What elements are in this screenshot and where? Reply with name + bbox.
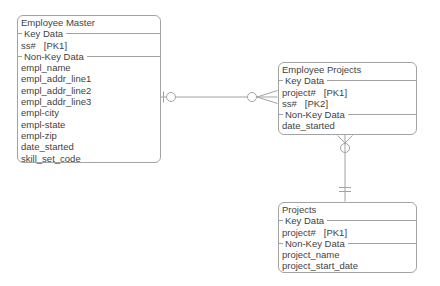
section-label: Non-Key Data: [283, 109, 348, 120]
cardinality-circle: [248, 93, 257, 102]
attribute-name: project#: [282, 227, 316, 238]
section-separator-nonkey-data: Non-Key Data: [18, 51, 160, 62]
separator-line: [327, 220, 416, 221]
primary-key-tag: [PK1]: [44, 40, 67, 51]
entity-title: Employee Master: [18, 17, 160, 28]
section-separator-key-data: Key Data: [279, 75, 416, 86]
relationship-projects-to-employee-projects: [338, 135, 353, 202]
section-separator-key-data: Key Data: [279, 215, 416, 226]
attribute-row: date_started: [18, 141, 160, 152]
section-label: Non-Key Data: [283, 238, 348, 249]
attribute-name: project#: [282, 87, 316, 98]
section-separator-key-data: Key Data: [18, 28, 160, 39]
entity-employee-projects: Employee Projects Key Data project#[PK1]…: [278, 62, 417, 135]
attribute-row: empl-state: [18, 119, 160, 130]
entity-title: Projects: [279, 204, 416, 215]
attribute-row: project_name: [279, 249, 416, 260]
attribute-row: empl_name: [18, 62, 160, 73]
crows-foot-icon: [338, 136, 346, 144]
attribute-row: empl_addr_line3: [18, 96, 160, 107]
separator-line: [348, 114, 416, 115]
section-separator-nonkey-data: Non-Key Data: [279, 109, 416, 120]
primary-key-tag: [PK1]: [324, 227, 347, 238]
section-label: Key Data: [283, 215, 327, 226]
attribute-row: project#[PK1]: [279, 87, 416, 98]
attribute-row: ss#[PK2]: [279, 98, 416, 109]
crows-foot-icon: [345, 136, 353, 144]
separator-line: [348, 243, 416, 244]
er-diagram-canvas: Employee Master Key Data ss#[PK1] Non-Ke…: [0, 0, 440, 286]
attribute-name: ss#: [21, 40, 36, 51]
separator-line: [87, 56, 160, 57]
attribute-row: empl-zip: [18, 130, 160, 141]
cardinality-circle: [167, 93, 176, 102]
attribute-row: project#[PK1]: [279, 227, 416, 238]
attribute-name: ss#: [282, 98, 297, 109]
attribute-row: empl-city: [18, 107, 160, 118]
attribute-row: date_started: [279, 120, 416, 131]
attribute-row: empl_addr_line1: [18, 73, 160, 84]
crows-foot-icon: [257, 97, 278, 104]
section-label: Key Data: [283, 75, 327, 86]
separator-line: [327, 80, 416, 81]
section-separator-nonkey-data: Non-Key Data: [279, 238, 416, 249]
relationship-employee-master-to-employee-projects: [161, 91, 278, 104]
section-label: Non-Key Data: [22, 51, 87, 62]
section-label: Key Data: [22, 28, 66, 39]
attribute-row: project_start_date: [279, 260, 416, 271]
entity-projects: Projects Key Data project#[PK1] Non-Key …: [278, 202, 417, 273]
attribute-row: empl_addr_line2: [18, 85, 160, 96]
attribute-row: skill_set_code: [18, 153, 160, 164]
attribute-row: ss#[PK1]: [18, 40, 160, 51]
cardinality-circle: [341, 144, 350, 153]
separator-line: [66, 33, 160, 34]
entity-title: Employee Projects: [279, 64, 416, 75]
primary-key-tag: [PK2]: [305, 98, 328, 109]
crows-foot-icon: [257, 91, 278, 98]
primary-key-tag: [PK1]: [324, 87, 347, 98]
entity-employee-master: Employee Master Key Data ss#[PK1] Non-Ke…: [17, 15, 161, 163]
